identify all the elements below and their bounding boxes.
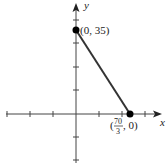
point-x-intercept — [127, 111, 134, 118]
point-label-70-3-0: ( 70 3 , 0) — [110, 117, 138, 136]
fraction-denominator: 3 — [116, 127, 120, 136]
point-y-intercept — [73, 27, 80, 34]
fraction-numerator: 70 — [114, 117, 122, 126]
x-axis-label: x — [159, 116, 165, 128]
point-label-0-35: (0, 35) — [80, 24, 110, 37]
coordinate-plane: y x (0, 35) ( 70 3 , 0) — [0, 0, 166, 165]
line-segment — [76, 30, 130, 114]
svg-text:, 0): , 0) — [123, 119, 138, 132]
graph-figure: y x (0, 35) ( 70 3 , 0) — [0, 0, 166, 165]
y-axis-label: y — [83, 0, 89, 11]
